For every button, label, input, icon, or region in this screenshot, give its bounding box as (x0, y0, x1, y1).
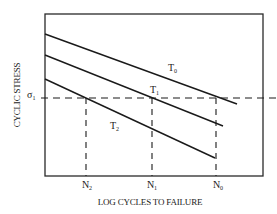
curve-label-t0-sub: 0 (174, 68, 177, 74)
fatigue-diagram (0, 0, 277, 214)
y-axis-title: CYCLIC STRESS (12, 63, 22, 128)
tick-label-n0-sub: 0 (220, 185, 223, 191)
x-axis-title: LOG CYCLES TO FAILURE (98, 197, 203, 207)
tick-label-n2: N2 (82, 179, 92, 190)
curve-label-t1-sub: 1 (156, 90, 159, 96)
tick-label-n2-sub: 2 (89, 185, 92, 191)
sigma-subscript: 1 (32, 95, 35, 101)
stress-level-label: σ1 (27, 89, 35, 100)
curve-t2 (45, 79, 215, 158)
curve-label-t2: T2 (110, 120, 119, 131)
curve-label-t2-sub: 2 (116, 126, 119, 132)
curve-label-t0: T0 (168, 62, 177, 73)
curve-label-t1: T1 (150, 84, 159, 95)
tick-label-n1-sub: 1 (154, 185, 157, 191)
tick-label-n1: N1 (147, 179, 157, 190)
plot-frame (45, 14, 263, 176)
tick-label-n0: N0 (213, 179, 223, 190)
curve-t1 (45, 55, 223, 126)
